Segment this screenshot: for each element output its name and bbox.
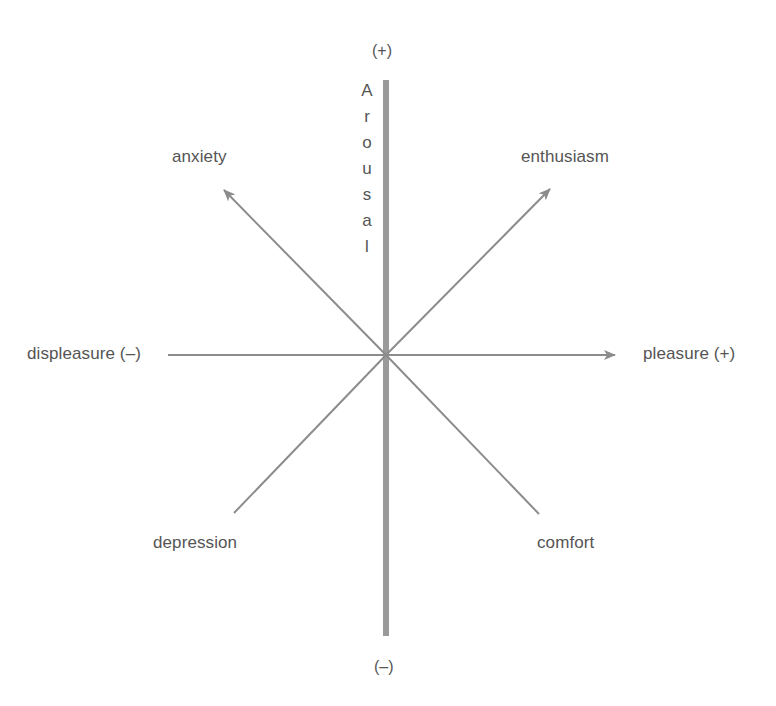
comfort-line: [386, 355, 539, 514]
enthusiasm-label: enthusiasm: [521, 147, 609, 167]
arousal-letter: r: [364, 104, 370, 130]
arousal-letter: a: [362, 208, 371, 234]
arousal-letter: u: [362, 156, 371, 182]
arousal-positive-sign: (+): [372, 42, 392, 60]
arousal-negative-sign: (–): [374, 658, 394, 676]
depression-label: depression: [153, 533, 237, 553]
arousal-letter: s: [363, 182, 372, 208]
depression-line: [234, 355, 386, 513]
arousal-letter: o: [362, 130, 371, 156]
circumplex-diagram: (+) (–) A r o u s a l displeasure (–) pl…: [0, 0, 776, 706]
arousal-letter: A: [361, 78, 372, 104]
arousal-letter: l: [365, 234, 369, 260]
displeasure-label: displeasure (–): [27, 344, 141, 364]
anxiety-label: anxiety: [172, 147, 227, 167]
enthusiasm-arrow: [386, 189, 550, 355]
comfort-label: comfort: [537, 533, 594, 553]
arousal-axis-label: A r o u s a l: [357, 78, 377, 260]
pleasure-label: pleasure (+): [643, 344, 735, 364]
